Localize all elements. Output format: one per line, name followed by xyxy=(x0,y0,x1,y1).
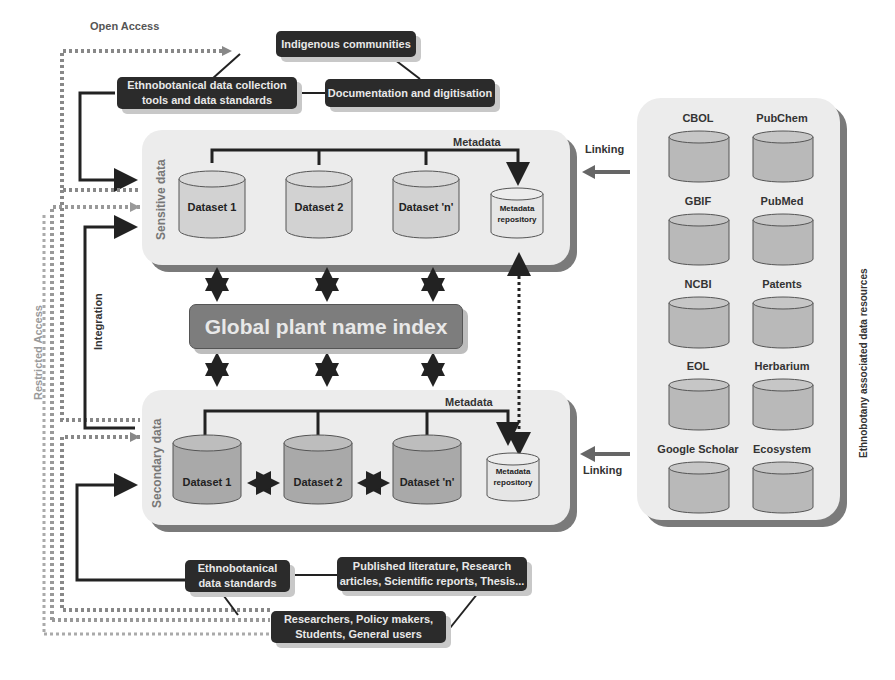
resource-database-icon xyxy=(668,130,730,184)
resource-database-icon xyxy=(668,461,730,515)
resource-label: NCBI xyxy=(653,278,743,290)
tools-standards-box: Ethnobotanical data collection tools and… xyxy=(117,77,297,109)
ethnobotanical-standards-box: Ethnobotanical data standards xyxy=(185,560,290,592)
resource-label: Google Scholar xyxy=(653,443,743,455)
open-access-label: Open Access xyxy=(90,20,159,32)
integration-label: Integration xyxy=(92,293,104,350)
global-plant-name-index: Global plant name index xyxy=(189,304,463,349)
restricted-access-label: Restricted Access xyxy=(32,305,44,400)
sensitive-metadata-repository: Metadata repository xyxy=(490,187,544,239)
users-line1: Researchers, Policy makers, xyxy=(284,612,433,627)
resource-database-icon xyxy=(668,213,730,267)
sensitive-dataset-2: Dataset 2 xyxy=(285,170,353,238)
sensitive-dataset-1: Dataset 1 xyxy=(178,170,246,238)
users-box: Researchers, Policy makers, Students, Ge… xyxy=(271,611,446,643)
resource-database-icon xyxy=(668,296,730,350)
literature-line2: articles, Scientific reports, Thesis... xyxy=(340,574,525,589)
sensitive-data-title: Sensitive data xyxy=(154,159,168,240)
linking-label-bottom: Linking xyxy=(583,464,622,476)
secondary-dataset-2: Dataset 2 xyxy=(283,434,353,504)
resource-label: Ecosystem xyxy=(737,443,827,455)
resource-database-icon xyxy=(668,378,730,432)
resource-label: GBIF xyxy=(653,195,743,207)
secondary-metadata-repository: Metadata repository xyxy=(486,452,540,502)
resource-label: Herbarium xyxy=(737,360,827,372)
published-literature-box: Published literature, Research articles,… xyxy=(337,557,527,591)
resource-database-icon xyxy=(752,213,814,267)
secondary-dataset-n: Dataset 'n' xyxy=(392,434,462,504)
literature-line1: Published literature, Research xyxy=(353,559,511,574)
standards-line1: Ethnobotanical xyxy=(198,561,277,576)
resource-label: PubChem xyxy=(737,112,827,124)
users-line2: Students, General users xyxy=(295,627,422,642)
tools-line2: tools and data standards xyxy=(142,93,272,108)
resource-label: PubMed xyxy=(737,195,827,207)
resource-database-icon xyxy=(752,461,814,515)
resources-title: Ethnobotany associated data resources xyxy=(858,268,869,458)
resource-database-icon xyxy=(752,296,814,350)
resource-label: Patents xyxy=(737,278,827,290)
secondary-dataset-1: Dataset 1 xyxy=(172,434,242,504)
standards-line2: data standards xyxy=(198,576,276,591)
resource-database-icon xyxy=(752,378,814,432)
indigenous-communities-box: Indigenous communities xyxy=(276,31,416,57)
linking-label-top: Linking xyxy=(585,143,624,155)
sensitive-metadata-label: Metadata xyxy=(453,136,501,148)
secondary-data-title: Secondary data xyxy=(150,419,164,508)
resource-database-icon xyxy=(752,130,814,184)
resource-label: EOL xyxy=(653,360,743,372)
documentation-box: Documentation and digitisation xyxy=(325,79,495,107)
sensitive-dataset-n: Dataset 'n' xyxy=(392,170,460,238)
tools-line1: Ethnobotanical data collection xyxy=(127,78,287,93)
secondary-metadata-label: Metadata xyxy=(445,396,493,408)
resource-label: CBOL xyxy=(653,112,743,124)
